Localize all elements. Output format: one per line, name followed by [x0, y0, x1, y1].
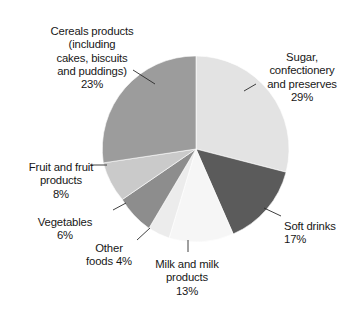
- pie-label-soft-drinks: Soft drinks 17%: [284, 207, 360, 260]
- leader-line-soft-drinks: [264, 208, 281, 216]
- pie-label-cereals-text: Cereals products (including cakes, biscu…: [51, 25, 134, 77]
- figure-caption: [10, 300, 350, 313]
- pie-label-fruit-value: 8%: [10, 188, 112, 201]
- pie-label-cereals: Cereals products (including cakes, biscu…: [18, 12, 166, 104]
- pie-chart-figure: Cereals products (including cakes, biscu…: [0, 0, 361, 313]
- pie-label-vegetables-text: Vegetables: [38, 216, 92, 228]
- pie-label-soft-drinks-value: 17%: [284, 233, 360, 246]
- pie-label-fruit: Fruit and fruit products 8%: [10, 148, 112, 214]
- pie-label-milk-value: 13%: [137, 285, 237, 298]
- leader-line-vegetables: [113, 203, 126, 210]
- pie-label-vegetables-value: 6%: [18, 229, 112, 242]
- pie-label-milk-text: Milk and milk products: [155, 258, 218, 283]
- pie-label-soft-drinks-text: Soft drinks: [284, 220, 336, 232]
- pie-label-cereals-value: 23%: [18, 78, 166, 91]
- pie-label-sugar-text: Sugar, confectionery and preserves: [267, 51, 337, 89]
- pie-label-sugar: Sugar, confectionery and preserves 29%: [248, 38, 356, 117]
- pie-label-fruit-text: Fruit and fruit products: [29, 161, 93, 186]
- pie-label-sugar-value: 29%: [248, 91, 356, 104]
